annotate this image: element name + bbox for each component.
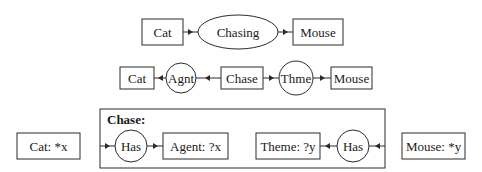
row3-has-left-label: Has [121, 139, 141, 154]
arrow-head-icon [158, 75, 163, 81]
row1-chasing-label: Chasing [217, 25, 260, 40]
row3-has-right-label: Has [343, 139, 363, 154]
row1-mouse-label: Mouse [300, 25, 336, 40]
row3-cat-x-label: Cat: *x [30, 139, 68, 154]
arrow-head-icon [269, 75, 274, 81]
row3-agent-label: Agent: ?x [170, 139, 221, 154]
row3-theme-label: Theme: ?y [260, 139, 316, 154]
row2-cat-label: Cat [128, 71, 146, 86]
conceptual-graph-diagram: Cat Chasing Mouse Cat Agnt Chase Thme Mo… [0, 0, 482, 172]
row1-cat-label: Cat [153, 25, 171, 40]
arrow-head-icon [283, 29, 288, 35]
arrow-head-icon [320, 75, 325, 81]
arrow-head-icon [188, 29, 193, 35]
row3-chase-context-label: Chase: [107, 112, 145, 127]
arrow-head-icon [205, 75, 210, 81]
row3-mouse-y-label: Mouse: *y [406, 139, 462, 154]
row2-chase-label: Chase [226, 71, 258, 86]
row2-thme-label: Thme [281, 71, 312, 86]
row2-mouse-label: Mouse [334, 71, 370, 86]
row2-agnt-label: Agnt [168, 71, 194, 86]
